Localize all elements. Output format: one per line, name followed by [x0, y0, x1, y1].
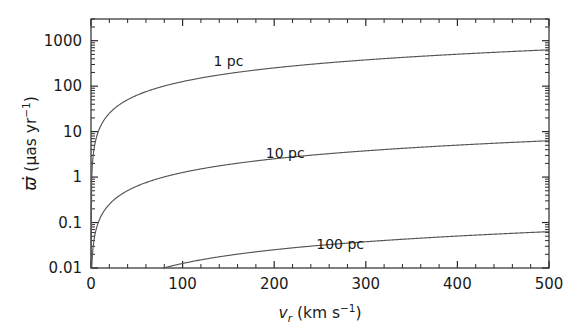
x-tick-label: 0 [86, 275, 96, 293]
y-axis-title: ϖ̇ (μas yr−1) [20, 96, 40, 191]
x-tick-label: 300 [351, 275, 380, 293]
y-tick-label: 0.01 [49, 259, 82, 277]
y-axis-title-group: ϖ̇ (μas yr−1) [20, 96, 40, 191]
curve-label-10pc: 10 pc [266, 145, 305, 161]
x-axis-title: vr (km s−1) [278, 302, 361, 324]
y-tick-label: 1 [72, 168, 82, 186]
y-tick-label: 10 [63, 123, 82, 141]
x-tick-label: 100 [168, 275, 197, 293]
chart-plot: 01002003004005000.010.111010010001 pc10 … [0, 0, 579, 336]
x-tick-label: 200 [260, 275, 289, 293]
y-tick-label: 0.1 [58, 214, 82, 232]
y-tick-label: 100 [53, 77, 82, 95]
curve-label-1pc: 1 pc [213, 53, 243, 69]
x-tick-label: 500 [535, 275, 564, 293]
figure-container: 01002003004005000.010.111010010001 pc10 … [0, 0, 579, 336]
x-tick-label: 400 [443, 275, 472, 293]
curve-label-100pc: 100 pc [316, 236, 364, 252]
y-tick-label: 1000 [44, 32, 82, 50]
